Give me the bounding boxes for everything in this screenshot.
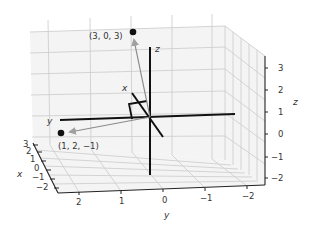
- point-3-0-3: [130, 29, 137, 36]
- y-tick: −2: [242, 191, 255, 201]
- y-axis-label: y: [163, 210, 170, 220]
- point-1-2-neg1: [58, 130, 65, 137]
- z-axis-label: z: [292, 97, 298, 107]
- point-label-a: (3, 0, 3): [89, 31, 123, 41]
- z-inline-label: z: [154, 44, 160, 54]
- 3d-plot: 3 2 1 0 −1 −2 x 2 1 0 −1 −2 y 3 2 1 0 −1…: [0, 0, 311, 230]
- z-tick: 2: [278, 85, 283, 95]
- x-tick: −1: [32, 172, 45, 182]
- y-tick: 2: [76, 197, 81, 207]
- z-tick: 3: [278, 63, 283, 73]
- z-tick: −2: [271, 173, 284, 183]
- z-tick: 1: [278, 107, 283, 117]
- x-axis-label: x: [16, 169, 23, 179]
- y-tick: 0: [162, 195, 167, 205]
- z-tick: −1: [271, 152, 284, 162]
- y-tick-labels: 2 1 0 −1 −2 y: [76, 191, 255, 220]
- x-tick: −2: [36, 182, 49, 192]
- y-inline-label: y: [46, 116, 53, 126]
- x-inline-label: x: [121, 83, 128, 93]
- z-tick: 0: [278, 129, 283, 139]
- y-tick: 1: [119, 196, 124, 206]
- y-tick: −1: [200, 193, 213, 203]
- z-tick-labels: 3 2 1 0 −1 −2 z: [271, 63, 298, 183]
- point-label-b: (1, 2, −1): [58, 141, 99, 151]
